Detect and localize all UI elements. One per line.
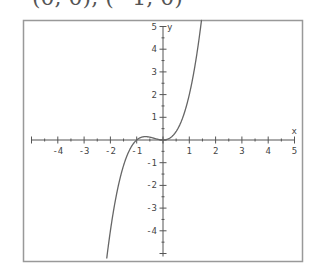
- x-tick-label: 4: [265, 146, 270, 156]
- y-axis-label: y: [167, 22, 173, 32]
- x-axis-label: x: [292, 126, 298, 136]
- y-tick-label: 1: [152, 112, 157, 122]
- x-tick-label: -4: [52, 146, 63, 156]
- function-plot: -4-3-2-11234554321-1-2-3-4yx: [0, 0, 321, 268]
- x-tick-label: 5: [292, 146, 297, 156]
- y-tick-label: 5: [152, 22, 157, 32]
- x-tick-label: 3: [239, 146, 244, 156]
- y-tick-label: -3: [146, 203, 157, 213]
- y-tick-label: 3: [152, 67, 157, 77]
- x-tick-label: -3: [79, 146, 90, 156]
- y-tick-label: -1: [146, 158, 157, 168]
- x-tick-label: 2: [213, 146, 218, 156]
- x-tick-label: 1: [187, 146, 192, 156]
- x-tick-label: -2: [105, 146, 116, 156]
- y-tick-label: -4: [146, 226, 157, 236]
- y-tick-label: 4: [152, 44, 157, 54]
- y-tick-label: 2: [152, 90, 157, 100]
- y-tick-label: -2: [146, 180, 157, 190]
- x-tick-label: -1: [131, 146, 142, 156]
